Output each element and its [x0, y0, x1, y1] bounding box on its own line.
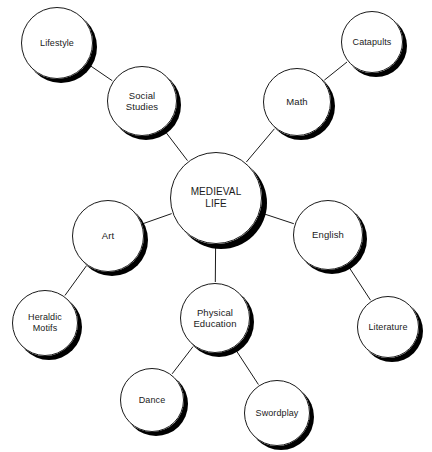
node-label-swordplay: Swordplay [256, 408, 299, 419]
node-math[interactable]: Math [263, 68, 331, 136]
node-heraldic-motifs[interactable]: Heraldic Motifs [12, 290, 78, 356]
node-label-dance: Dance [139, 395, 166, 406]
node-swordplay[interactable]: Swordplay [244, 380, 310, 446]
edge-art-to-heraldic-motifs [65, 266, 86, 295]
concept-map-canvas: MEDIEVAL LIFESocial StudiesLifestyleMath… [0, 0, 432, 452]
node-label-physical-education: Physical Education [193, 307, 236, 329]
node-label-art: Art [102, 230, 114, 241]
edge-physical-education-to-swordplay [235, 348, 259, 384]
edge-medieval-life-to-english [261, 213, 294, 224]
node-catapults[interactable]: Catapults [341, 11, 403, 73]
node-label-catapults: Catapults [353, 37, 392, 48]
edge-medieval-life-to-math [246, 129, 274, 162]
edge-physical-education-to-dance [172, 347, 193, 374]
node-art[interactable]: Art [72, 200, 144, 272]
node-label-math: Math [286, 96, 308, 107]
node-dance[interactable]: Dance [120, 368, 184, 432]
node-literature[interactable]: Literature [357, 296, 419, 358]
node-label-medieval-life: MEDIEVAL LIFE [191, 186, 242, 210]
node-label-social-studies: Social Studies [126, 90, 158, 112]
node-label-english: English [312, 229, 344, 240]
edge-english-to-literature [348, 265, 371, 300]
node-label-heraldic-motifs: Heraldic Motifs [28, 312, 62, 333]
node-medieval-life[interactable]: MEDIEVAL LIFE [170, 152, 262, 244]
node-social-studies[interactable]: Social Studies [107, 66, 177, 136]
edge-math-to-catapults [324, 62, 347, 80]
node-label-literature: Literature [368, 322, 407, 333]
edge-medieval-life-to-social-studies [164, 130, 188, 161]
node-label-lifestyle: Lifestyle [40, 38, 74, 49]
node-lifestyle[interactable]: Lifestyle [21, 7, 93, 79]
node-physical-education[interactable]: Physical Education [180, 283, 250, 353]
edge-medieval-life-to-art [143, 214, 172, 224]
node-english[interactable]: English [293, 200, 363, 270]
